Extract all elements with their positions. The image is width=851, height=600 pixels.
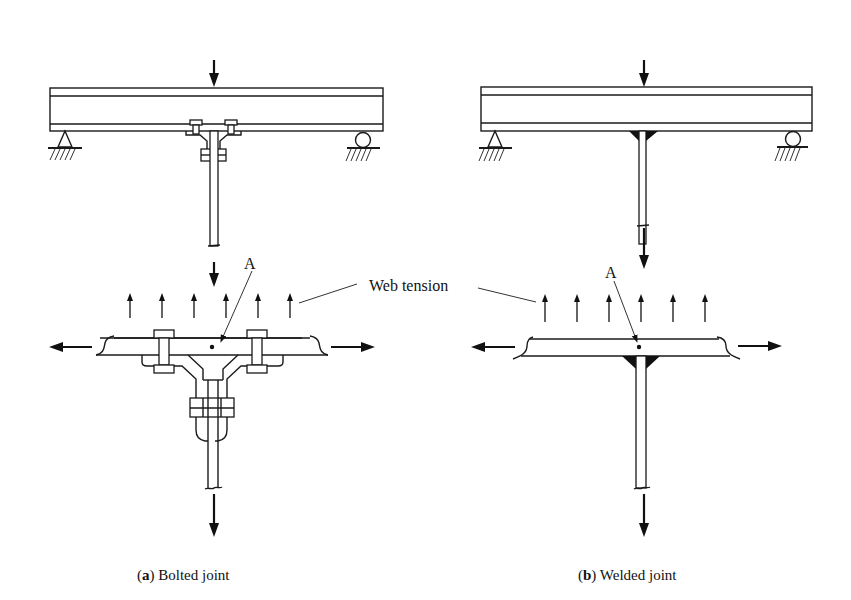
roller-support-icon [346,133,380,162]
caption-b-text: Welded joint [600,567,677,583]
panel-b-welded [478,60,812,530]
panel-a-bolted [48,60,383,530]
caption-a-text: Bolted joint [158,567,229,583]
caption-b-letter: b [583,567,591,583]
pin-support-icon [48,131,82,160]
web-tension-label: Web tension [369,277,448,295]
bolted-hanger-small [186,120,241,246]
diagram-canvas [0,0,851,600]
beam [481,87,812,131]
point-a-leader [614,281,636,339]
caption-b: (b) Welded joint [578,567,677,584]
point-a-marker [210,345,214,349]
roller-support-icon [775,132,808,162]
caption-a: (a) Bolted joint [137,567,230,584]
beam [50,88,383,131]
pin-support-icon [479,131,512,161]
caption-a-letter: a [142,567,150,583]
point-a-label-left: A [244,255,256,273]
bolted-detail [56,271,368,489]
web-tension-leader-right [478,288,536,302]
web-tension-arrows [130,297,290,318]
welded-hanger-small [629,131,658,244]
welded-detail [478,281,775,489]
point-a-label-right: A [605,264,617,282]
web-tension-leader-left [299,284,357,303]
point-a-marker [637,345,641,349]
